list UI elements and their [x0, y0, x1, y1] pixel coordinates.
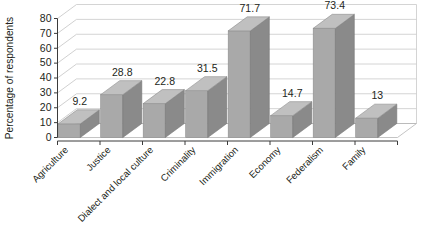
bar: [313, 14, 354, 137]
y-axis-tick-label: 50: [40, 56, 52, 68]
y-axis-tick-label: 60: [40, 42, 52, 54]
y-axis-tick-label: 10: [40, 116, 52, 128]
bar-value-label: 73.4: [325, 0, 346, 11]
x-axis-category-label: Family: [340, 144, 368, 172]
x-axis-category-label: Dialect and local culture: [75, 144, 155, 224]
bar-value-label: 14.7: [282, 87, 303, 99]
y-axis-tick-label: 20: [40, 101, 52, 113]
x-axis-category-label: Criminality: [158, 144, 198, 184]
bar: [228, 17, 269, 138]
bar-value-label: 31.5: [197, 62, 218, 74]
x-axis-category-label: Justice: [84, 144, 113, 173]
bar-value-label: 22.8: [155, 75, 176, 87]
bar-chart: 01020304050607080 9.228.822.831.571.714.…: [0, 0, 427, 244]
bar-series: [58, 14, 397, 137]
y-axis-tick-label: 40: [40, 71, 52, 83]
bar: [143, 90, 184, 138]
x-axis-category-label: Federalism: [284, 144, 325, 185]
x-axis-category-label: Immigration: [197, 144, 240, 187]
bar: [356, 104, 397, 137]
x-axis-category-labels: AgricultureJusticeDialect and local cult…: [30, 144, 368, 224]
bar: [271, 102, 312, 138]
chart-canvas: 01020304050607080 9.228.822.831.571.714.…: [0, 0, 427, 244]
y-axis-tick-label: 80: [40, 12, 52, 24]
x-axis-category-label: Agriculture: [30, 144, 70, 184]
y-axis-tick-labels: 01020304050607080: [40, 12, 52, 143]
y-axis-title: Percentage of respondents: [4, 17, 15, 139]
bar-value-label: 28.8: [112, 66, 133, 78]
bar: [101, 81, 142, 138]
y-axis-tick-label: 0: [46, 131, 52, 143]
bar-value-label: 13: [371, 89, 383, 101]
x-axis-category-label: Economy: [247, 144, 283, 180]
bar: [58, 110, 99, 138]
bar-value-label: 71.7: [240, 2, 261, 14]
bar: [186, 77, 227, 138]
y-axis-tick-label: 70: [40, 27, 52, 39]
bar-value-label: 9.2: [72, 95, 87, 107]
y-axis-tick-label: 30: [40, 86, 52, 98]
